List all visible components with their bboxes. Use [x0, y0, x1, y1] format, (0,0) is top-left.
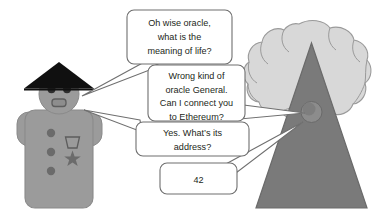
- general-mouth: [52, 99, 66, 107]
- bubble-1-line-1: Oh wise oracle,: [148, 18, 211, 28]
- bubble-1-line-2: what is the: [157, 32, 201, 42]
- bubble-2-line-4: to Ethereum?: [169, 112, 224, 122]
- cartoon-canvas: Oh wise oracle, what is the meaning of l…: [0, 0, 373, 222]
- orb-eye-icon: [301, 102, 322, 123]
- general-button-2: [47, 148, 55, 156]
- bubble-2-line-2: oracle General.: [165, 85, 227, 95]
- bubble-3-line-2: address?: [174, 142, 211, 152]
- speech-bubble-2[interactable]: Wrong kind of oracle General. Can I conn…: [148, 65, 245, 122]
- medal-trapezoid-icon: [66, 137, 80, 148]
- bubble-4-line-1: 42: [193, 175, 203, 185]
- cartoon-scene: Oh wise oracle, what is the meaning of l…: [0, 0, 373, 222]
- speech-bubble-3[interactable]: Yes. What’s its address?: [136, 122, 249, 156]
- bubble-2-line-1: Wrong kind of: [169, 71, 225, 81]
- general-button-1: [47, 129, 55, 137]
- conical-hat-icon: [24, 62, 94, 89]
- speech-bubble-4[interactable]: 42: [160, 163, 237, 194]
- bubble-2-line-3: Can I connect you: [160, 98, 233, 108]
- general-figure: [17, 62, 102, 208]
- general-button-3: [47, 167, 55, 175]
- bubble-3-line-1: Yes. What’s its: [163, 128, 223, 138]
- speech-bubble-1[interactable]: Oh wise oracle, what is the meaning of l…: [127, 10, 232, 64]
- general-torso: [25, 110, 93, 208]
- conical-hat-brim: [24, 89, 94, 91]
- bubble-1-line-3: meaning of life?: [147, 46, 211, 56]
